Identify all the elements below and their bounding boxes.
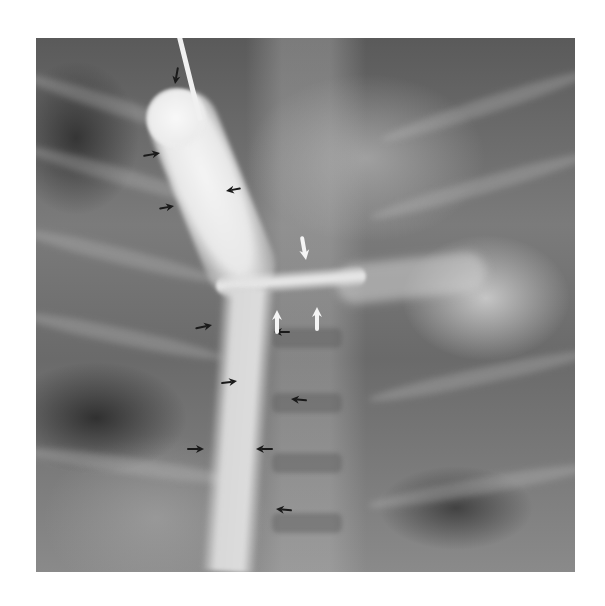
rib-shadow <box>36 306 225 365</box>
vertebra <box>272 453 342 473</box>
rib-shadow <box>379 64 575 147</box>
vertebra <box>272 393 342 413</box>
rib-shadow <box>368 147 575 226</box>
vertebra <box>272 328 342 348</box>
radiograph-image <box>36 38 575 572</box>
rib-shadow <box>367 344 575 407</box>
rib-shadow <box>366 458 575 514</box>
vertebra <box>272 513 342 533</box>
